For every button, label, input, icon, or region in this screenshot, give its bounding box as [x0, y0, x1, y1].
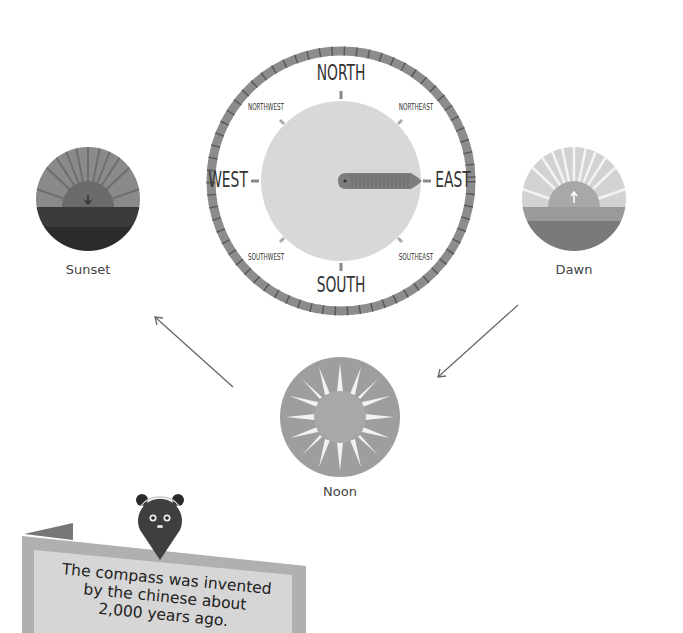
banner: [0, 0, 683, 633]
character-avatar: [135, 490, 185, 562]
girl-avatar-icon: [135, 490, 185, 562]
